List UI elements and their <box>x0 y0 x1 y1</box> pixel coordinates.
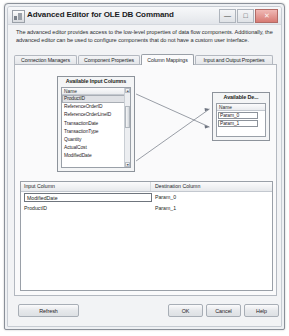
refresh-button[interactable]: Refresh <box>18 304 79 317</box>
maximize-icon: □ <box>238 10 253 21</box>
cell-input-column[interactable]: ProductID <box>21 203 151 214</box>
available-destination-columns-box: Available De... Name Param_0 Param_1 <box>212 92 270 141</box>
list-item[interactable]: Param_1 <box>218 120 258 128</box>
table-row[interactable]: ModifiedDate Param_0 <box>21 192 272 203</box>
dialog-footer: Refresh OK Cancel Help <box>8 304 281 322</box>
dialog-inner: Advanced Editor for OLE DB Command — □ ✕… <box>7 6 282 327</box>
minimize-icon: — <box>220 10 235 21</box>
list-item[interactable]: ReferenceOrderLineID <box>62 111 130 119</box>
dialog-description: The advanced editor provides access to t… <box>16 28 274 44</box>
input-columns-grid[interactable]: Name ProductID ReferenceOrderID Referenc… <box>61 87 131 168</box>
list-item[interactable]: ProductID <box>62 95 130 103</box>
title-bar[interactable]: Advanced Editor for OLE DB Command — □ ✕ <box>8 7 281 25</box>
close-button[interactable]: ✕ <box>255 9 278 23</box>
input-columns-caption: Available Input Columns <box>58 78 134 84</box>
header-input-column: Input Column <box>21 182 151 191</box>
cell-destination-column[interactable]: Param_0 <box>151 192 272 203</box>
scroll-down-icon[interactable]: ▼ <box>125 162 130 167</box>
mapping-canvas: Available Input Columns Name ProductID R… <box>15 65 276 178</box>
destination-columns-header: Name <box>217 104 265 111</box>
available-input-columns-box: Available Input Columns Name ProductID R… <box>57 76 135 172</box>
input-columns-header: Name <box>62 88 130 95</box>
scroll-up-icon[interactable]: ▲ <box>125 88 130 93</box>
list-item[interactable]: Param_0 <box>218 112 258 120</box>
header-destination-column: Destination Column <box>151 182 272 191</box>
cell-input-column[interactable]: ModifiedDate <box>21 192 151 203</box>
connector-line-1 <box>136 94 209 127</box>
list-item[interactable]: ActualCost <box>62 144 130 152</box>
list-item[interactable]: Quantity <box>62 136 130 144</box>
destination-columns-caption: Available De... <box>213 94 269 100</box>
list-item[interactable]: TransactionDate <box>62 120 130 128</box>
window-controls: — □ ✕ <box>219 9 278 23</box>
connector-line-2 <box>136 109 209 161</box>
list-item[interactable]: ModifiedDate <box>62 152 130 160</box>
window-title: Advanced Editor for OLE DB Command <box>27 10 174 19</box>
list-item[interactable]: TransactionType <box>62 128 130 136</box>
input-column-editor[interactable]: ModifiedDate <box>24 193 152 203</box>
ok-button[interactable]: OK <box>168 304 203 317</box>
column-mapping-grid[interactable]: Input Column Destination Column Modified… <box>20 181 273 291</box>
minimize-button[interactable]: — <box>219 9 236 23</box>
mapping-grid-header: Input Column Destination Column <box>21 182 272 192</box>
advanced-editor-dialog: Advanced Editor for OLE DB Command — □ ✕… <box>4 3 285 330</box>
maximize-button[interactable]: □ <box>237 9 254 23</box>
help-button[interactable]: Help <box>244 304 279 317</box>
app-icon <box>12 10 25 23</box>
tab-column-mappings[interactable]: Column Mappings <box>141 54 194 65</box>
table-row[interactable]: ProductID Param_1 <box>21 203 272 214</box>
destination-columns-grid[interactable]: Name Param_0 Param_1 <box>216 103 266 137</box>
list-item[interactable]: ReferenceOrderID <box>62 103 130 111</box>
scrollbar-thumb[interactable] <box>125 106 130 128</box>
cell-destination-column[interactable]: Param_1 <box>151 203 272 214</box>
close-icon: ✕ <box>256 10 277 21</box>
input-columns-scrollbar[interactable]: ▲ ▼ <box>124 88 130 167</box>
cancel-button[interactable]: Cancel <box>206 304 241 317</box>
column-mappings-page: Available Input Columns Name ProductID R… <box>14 64 277 296</box>
